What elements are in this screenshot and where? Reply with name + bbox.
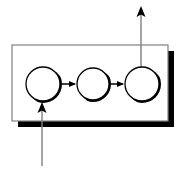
diagram-canvas: Three-stage process flow diagram [0,0,184,171]
process-node-3[interactable] [125,67,159,101]
diagram-svg [0,0,184,171]
process-node-1[interactable] [26,67,60,101]
process-node-2[interactable] [77,68,109,100]
